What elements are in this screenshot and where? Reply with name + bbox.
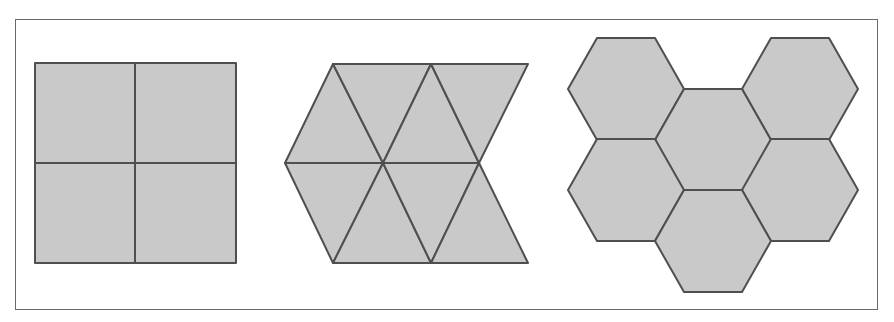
square-tile xyxy=(35,63,135,163)
triangle-tiling xyxy=(285,64,528,263)
tessellation-figure xyxy=(0,0,894,322)
square-tile xyxy=(35,163,135,263)
square-tiling xyxy=(35,63,236,263)
square-tile xyxy=(135,63,236,163)
hexagon-tiling xyxy=(568,38,858,292)
square-tile xyxy=(135,163,236,263)
